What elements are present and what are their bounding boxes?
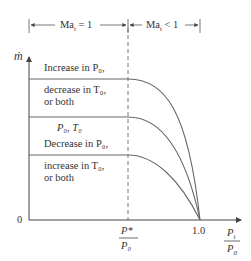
unit-ratio-tick: 1.0 bbox=[192, 225, 205, 237]
x-axis-label-denominator: P0 bbox=[227, 243, 237, 259]
x-axis-label-numerator: Pt bbox=[227, 227, 235, 243]
critical-ratio-denominator: P₀ bbox=[121, 240, 131, 252]
critical-ratio-numerator: P* bbox=[121, 225, 133, 237]
curve-top-label-1: Increase in P₀, bbox=[44, 62, 105, 74]
mass-flow-diagram bbox=[0, 0, 251, 261]
curve-bottom-label-2: increase in T₀, bbox=[44, 160, 104, 172]
region-label-subsonic: Mat < 1 bbox=[146, 19, 178, 35]
region-label-choked: Mat = 1 bbox=[60, 19, 92, 35]
curve-middle-label: P₀, T₀ bbox=[57, 122, 82, 134]
curve-top-label-3: or both bbox=[44, 96, 74, 108]
curve-top-label-2: decrease in T₀, bbox=[44, 84, 106, 96]
curve-bottom-label-3: or both bbox=[44, 172, 74, 184]
curve-bottom-label-1: Decrease in P₀, bbox=[44, 138, 108, 150]
origin-label: 0 bbox=[17, 214, 22, 226]
y-axis-label-mass-flow: ṁ bbox=[14, 50, 23, 62]
